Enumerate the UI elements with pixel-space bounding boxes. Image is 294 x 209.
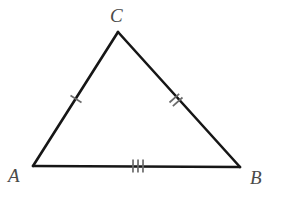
side-CB xyxy=(118,32,240,167)
congruence-tick-marks xyxy=(71,94,183,173)
triangle-outline xyxy=(33,32,240,167)
geometry-figure: C A B xyxy=(0,0,294,209)
vertex-label-b: B xyxy=(250,168,262,187)
vertex-label-c: C xyxy=(110,6,123,25)
side-AB xyxy=(33,166,240,167)
vertex-label-a: A xyxy=(8,166,20,185)
